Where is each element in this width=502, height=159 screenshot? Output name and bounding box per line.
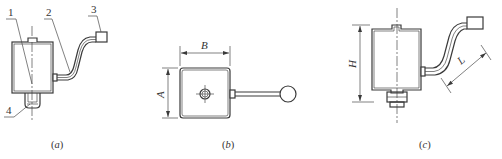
- panel-b: B A (b): [154, 39, 296, 151]
- rod-connector: [230, 90, 235, 98]
- caption-c: (c): [419, 139, 431, 151]
- sensor-body: [12, 42, 53, 93]
- leader-3: [88, 16, 101, 32]
- dimension-h-label: H: [346, 59, 358, 69]
- callout-2: 2: [46, 6, 52, 18]
- dimension-a-label: A: [154, 91, 166, 99]
- caption-b: (b): [222, 139, 235, 151]
- ball-end: [280, 86, 296, 102]
- sensor-side-view: [372, 25, 421, 93]
- panel-c: H L (c): [346, 8, 491, 151]
- end-plug: [467, 17, 483, 29]
- cable-connector: [53, 74, 57, 81]
- bottom-mount: [25, 93, 40, 108]
- callout-1: 1: [8, 6, 14, 18]
- diagram-canvas: 1 2 3 4 (a) B A (b): [0, 0, 502, 159]
- dimension-b-label: B: [201, 39, 208, 51]
- callout-4: 4: [6, 104, 12, 116]
- cable-connector: [421, 67, 425, 76]
- dimension-l-label: L: [454, 53, 467, 67]
- callout-3: 3: [91, 3, 97, 15]
- top-notch: [28, 38, 37, 42]
- dimension-l-line: [447, 53, 486, 86]
- sensor-body-inner: [14, 44, 51, 91]
- panel-a: 1 2 3 4 (a): [4, 3, 107, 151]
- end-plug: [96, 32, 107, 42]
- caption-a: (a): [51, 139, 64, 151]
- leader-2: [44, 19, 70, 72]
- leader-1: [6, 19, 32, 84]
